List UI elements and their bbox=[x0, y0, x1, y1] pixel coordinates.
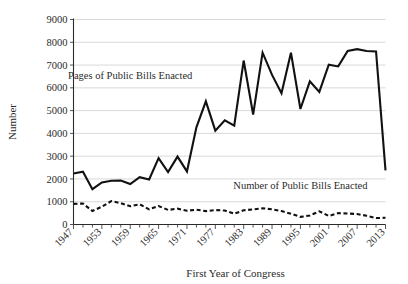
x-tick-label: 1983 bbox=[222, 226, 245, 249]
series-line-2 bbox=[74, 201, 386, 218]
line-chart: 0100020003000400050006000700080009000 19… bbox=[0, 0, 408, 284]
x-tick-label-group: 1947195319591965197119771983198919952001… bbox=[52, 226, 387, 249]
x-axis-title: First Year of Congress bbox=[186, 267, 284, 279]
y-tick-label: 9000 bbox=[47, 14, 68, 25]
x-tick-label: 2013 bbox=[364, 226, 387, 249]
x-tick-label: 1971 bbox=[166, 226, 189, 249]
y-tick-label: 4000 bbox=[47, 128, 68, 139]
figure-container: 0100020003000400050006000700080009000 19… bbox=[0, 0, 408, 284]
x-tick-label: 1977 bbox=[194, 226, 217, 249]
x-tick-label: 1989 bbox=[251, 226, 274, 249]
x-tick-label: 2001 bbox=[308, 226, 331, 249]
x-tick-label: 2007 bbox=[336, 226, 359, 249]
series-label-2: Number of Public Bills Enacted bbox=[233, 180, 368, 191]
y-tick-label: 7000 bbox=[47, 60, 68, 71]
y-tick-label: 6000 bbox=[47, 82, 68, 93]
series-label-1: Pages of Public Bills Enacted bbox=[68, 70, 193, 81]
y-tick-label: 2000 bbox=[47, 174, 68, 185]
y-tick-label: 3000 bbox=[47, 151, 68, 162]
y-tick-label: 1000 bbox=[47, 196, 68, 207]
x-tick-label: 1995 bbox=[279, 226, 302, 249]
y-tick-label: 5000 bbox=[47, 105, 68, 116]
x-tick-label: 1947 bbox=[52, 226, 75, 249]
y-axis-title: Number bbox=[6, 104, 18, 140]
x-tick-label: 1953 bbox=[81, 226, 104, 249]
y-tick-label: 8000 bbox=[47, 37, 68, 48]
x-tick-label: 1965 bbox=[137, 226, 160, 249]
x-tick-label: 1959 bbox=[109, 226, 132, 249]
y-tick-label-group: 0100020003000400050006000700080009000 bbox=[47, 14, 68, 230]
